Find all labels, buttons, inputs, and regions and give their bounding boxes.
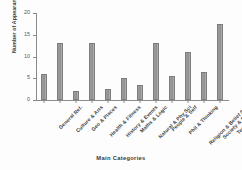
bar-slot [116, 13, 132, 100]
x-tick-mark [156, 100, 157, 103]
y-tick-label: 10 [16, 53, 30, 59]
bar-slot [68, 13, 84, 100]
bar-slot [164, 13, 180, 100]
x-axis-title: Main Categories [0, 155, 242, 161]
bar-slot [148, 13, 164, 100]
y-tick-label: 20 [16, 9, 30, 15]
bar-slot [84, 13, 100, 100]
bar-slot [212, 13, 228, 100]
bar[interactable] [153, 43, 159, 100]
y-tick-label: 15 [16, 31, 30, 37]
bar-slot [100, 13, 116, 100]
x-tick-mark [172, 100, 173, 103]
bar-slot [180, 13, 196, 100]
x-tick-mark [44, 100, 45, 103]
bar[interactable] [137, 85, 143, 100]
y-tick-label: 5 [16, 74, 30, 80]
bar[interactable] [41, 74, 47, 100]
x-tick-mark [92, 100, 93, 103]
bar-chart: Number of Appearance 05101520 Main Categ… [0, 0, 242, 170]
plot-area: 05101520 [36, 13, 228, 100]
bar[interactable] [217, 24, 223, 100]
bar[interactable] [201, 72, 207, 100]
bar[interactable] [169, 76, 175, 100]
x-tick-mark [140, 100, 141, 103]
bar[interactable] [73, 91, 79, 100]
x-tick-mark [204, 100, 205, 103]
bar[interactable] [121, 78, 127, 100]
bar-slot [132, 13, 148, 100]
bar[interactable] [57, 43, 63, 100]
bar-slot [36, 13, 52, 100]
y-tick-label: 0 [16, 96, 30, 102]
bar[interactable] [185, 52, 191, 100]
bar-slot [196, 13, 212, 100]
y-tick-mark [33, 100, 36, 101]
x-tick-mark [108, 100, 109, 103]
x-tick-mark [220, 100, 221, 103]
x-tick-mark [124, 100, 125, 103]
x-axis-line [36, 100, 229, 101]
bar-slot [52, 13, 68, 100]
bar[interactable] [105, 89, 111, 100]
x-tick-mark [60, 100, 61, 103]
bar[interactable] [89, 43, 95, 100]
x-tick-mark [76, 100, 77, 103]
